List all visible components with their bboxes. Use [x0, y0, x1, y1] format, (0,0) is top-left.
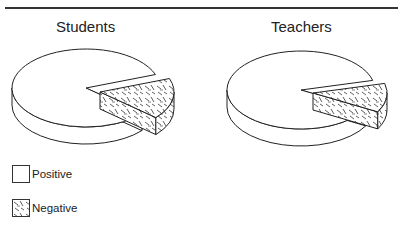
pie-teachers: [227, 51, 387, 146]
legend-item-negative: Negative: [12, 197, 77, 219]
legend-label-positive: Positive: [32, 168, 72, 180]
hatch-pattern-icon: [13, 200, 30, 217]
legend-label-negative: Negative: [32, 202, 77, 214]
positive-swatch: [12, 165, 30, 183]
pie-students: [12, 49, 174, 144]
negative-swatch: [12, 199, 30, 217]
legend: Positive Negative: [12, 163, 77, 228]
legend-item-positive: Positive: [12, 163, 77, 185]
